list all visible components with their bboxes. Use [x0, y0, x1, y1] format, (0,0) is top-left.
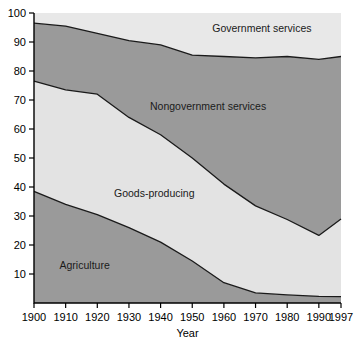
band-label-nongovernment-services: Nongovernment services	[150, 100, 266, 112]
y-tick-label: 40	[14, 181, 26, 193]
x-tick-label: 1920	[85, 311, 109, 323]
x-tick-label: 1950	[180, 311, 204, 323]
band-label-government-services: Government services	[212, 22, 311, 34]
stacked-area-chart: 1020304050607080901001900191019201930194…	[0, 0, 354, 344]
x-tick-label: 1900	[22, 311, 46, 323]
y-tick-label: 10	[14, 268, 26, 280]
x-tick-label: 1990	[307, 311, 331, 323]
band-label-goods-producing: Goods-producing	[114, 187, 195, 199]
chart-canvas: 1020304050607080901001900191019201930194…	[0, 0, 354, 344]
y-tick-label: 30	[14, 210, 26, 222]
x-tick-label: 1980	[275, 311, 299, 323]
y-tick-label: 60	[14, 123, 26, 135]
y-tick-label: 20	[14, 239, 26, 251]
y-tick-label: 70	[14, 94, 26, 106]
y-tick-label: 100	[8, 7, 26, 19]
x-tick-label: 1910	[53, 311, 77, 323]
x-axis-title: Year	[176, 327, 199, 339]
x-tick-label: 1970	[243, 311, 267, 323]
x-tick-label: 1960	[212, 311, 236, 323]
x-tick-label: 1997	[329, 311, 353, 323]
x-tick-label: 1930	[117, 311, 141, 323]
y-tick-label: 90	[14, 36, 26, 48]
y-tick-label: 50	[14, 152, 26, 164]
x-tick-label: 1940	[148, 311, 172, 323]
y-tick-label: 80	[14, 65, 26, 77]
band-label-agriculture: Agriculture	[60, 259, 110, 271]
